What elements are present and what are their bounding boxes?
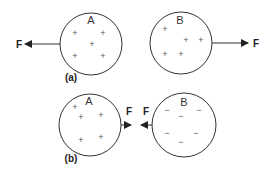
charge-symbol: + [89, 39, 94, 49]
charge-symbol: + [198, 35, 203, 45]
sphere-b-panel-a: B + + + + + [150, 12, 212, 74]
sphere-b-label: B [176, 14, 183, 26]
charge-symbol: − [164, 128, 169, 138]
charge-symbol: − [193, 128, 198, 138]
charge-symbol: + [178, 49, 183, 59]
force-arrow-b-left: F [141, 106, 152, 125]
panel-b: A + + + + + F B − − − − − − F (b) [59, 93, 216, 164]
charge-symbol: − [196, 105, 201, 115]
charge-symbol: + [98, 132, 103, 142]
force-label: F [16, 39, 22, 50]
panel-label-b: (b) [65, 153, 78, 164]
force-label: F [126, 106, 132, 117]
charge-symbol: + [78, 112, 83, 122]
force-arrow-a-right: F [121, 106, 132, 125]
force-arrow-a-left: F [16, 39, 60, 50]
charge-symbol: + [183, 35, 188, 45]
force-arrow-b-right: F [212, 38, 259, 49]
charge-symbol: + [78, 135, 83, 145]
charge-symbol: + [162, 49, 167, 59]
panel-a: A + + + + + F B + + + + + F (a) [16, 12, 259, 83]
sphere-b-panel-b: B − − − − − − [152, 93, 216, 157]
sphere-a-panel-a: A + + + + + [60, 13, 122, 75]
force-label: F [143, 106, 149, 117]
charge-symbol: − [178, 111, 183, 121]
panel-label-a: (a) [65, 72, 77, 83]
sphere-a-label: A [87, 14, 95, 26]
sphere-a-label: A [85, 95, 93, 107]
charge-symbol: − [164, 105, 169, 115]
force-label: F [253, 38, 259, 49]
charge-symbol: + [100, 28, 105, 38]
sphere-a-panel-b: A + + + + + [59, 94, 121, 156]
charge-symbol: + [72, 51, 77, 61]
charge-symbol: + [162, 24, 167, 34]
charge-symbol: + [98, 110, 103, 120]
charge-interaction-diagram: A + + + + + F B + + + + + F (a) [0, 0, 276, 174]
sphere-b-label: B [180, 96, 187, 108]
charge-symbol: + [100, 51, 105, 61]
charge-symbol: + [72, 102, 77, 112]
charge-symbol: + [72, 28, 77, 38]
charge-symbol: − [178, 137, 183, 147]
